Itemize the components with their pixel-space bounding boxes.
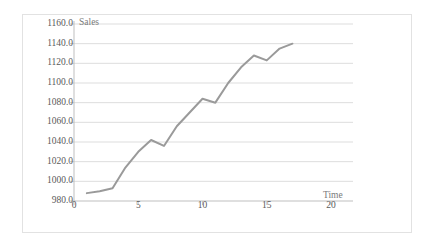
x-tick-label: 5 [136,201,141,211]
y-tick-label: 1060.0 [27,118,73,128]
y-tick-label: 1040.0 [27,137,73,147]
axis-lines [74,21,353,201]
x-axis-tick-labels: 05101520 [23,201,411,215]
x-tick-label: 10 [198,201,208,211]
y-tick-label: 1080.0 [27,98,73,108]
plot-area: 980.01000.01020.01040.01060.01080.01100.… [23,15,411,232]
data-series [87,44,293,193]
x-tick-label: 0 [72,201,77,211]
y-axis-title: Sales [79,18,99,28]
y-tick-label: 1120.0 [27,59,73,69]
x-axis-title: Time [323,191,343,201]
y-tick-label: 1140.0 [27,39,73,49]
y-tick-label: 1020.0 [27,157,73,167]
y-tick-label: 1160.0 [27,19,73,29]
y-tick-label: 1000.0 [27,177,73,187]
x-tick-label: 20 [326,201,336,211]
x-tick-label: 15 [262,201,272,211]
y-tick-label: 1100.0 [27,78,73,88]
chart-figure: 980.01000.01020.01040.01060.01080.01100.… [22,14,412,233]
y-axis-tick-labels: 980.01000.01020.01040.01060.01080.01100.… [25,15,73,232]
